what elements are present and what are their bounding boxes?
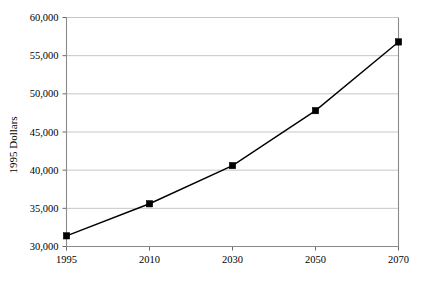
x-tick-label: 2070 [388,254,409,265]
data-point-marker [229,162,235,168]
y-tick-label: 45,000 [30,127,59,138]
y-tick-label: 60,000 [30,12,59,23]
chart-background [0,0,421,287]
data-point-marker [146,201,152,207]
data-point-marker [312,107,318,113]
line-chart: 60,00055,00050,00045,00040,00035,00030,0… [0,0,421,287]
y-tick-label: 40,000 [30,165,59,176]
y-tick-label: 55,000 [30,50,59,61]
figure-container: 60,00055,00050,00045,00040,00035,00030,0… [0,0,421,287]
x-tick-label: 1995 [56,254,77,265]
data-point-marker [63,233,69,239]
x-tick-label: 2030 [222,254,243,265]
y-tick-label: 50,000 [30,88,59,99]
data-point-marker [395,39,401,45]
y-tick-label: 30,000 [30,241,59,252]
y-tick-label: 35,000 [30,203,59,214]
y-axis-title: 1995 Dollars [7,116,19,173]
x-tick-label: 2050 [305,254,326,265]
x-tick-label: 2010 [139,254,160,265]
